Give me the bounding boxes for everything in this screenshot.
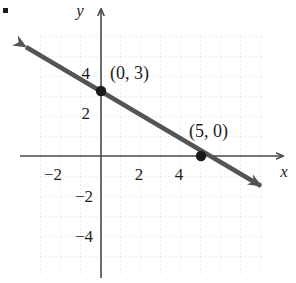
point-0-3: [96, 86, 106, 96]
y-tick-label-2: 2: [82, 104, 91, 123]
annotation-point-5-0: (5, 0): [189, 121, 228, 142]
y-tick-label-neg2: −2: [75, 187, 93, 206]
coordinate-plane-svg: y x −2 2 4 4 2 −2 −4 (0, 3) (5, 0): [0, 0, 296, 283]
x-axis-label: x: [279, 162, 288, 181]
point-5-0: [196, 151, 206, 161]
x-tick-label-2: 2: [135, 165, 144, 184]
x-tick-label-neg2: −2: [44, 165, 62, 184]
bullet-marker-icon: [3, 8, 8, 13]
y-tick-label-4: 4: [82, 64, 91, 83]
y-tick-label-neg4: −4: [75, 227, 94, 246]
graph-figure: y x −2 2 4 4 2 −2 −4 (0, 3) (5, 0): [0, 0, 296, 283]
annotation-point-0-3: (0, 3): [110, 63, 149, 84]
x-tick-label-4: 4: [175, 165, 184, 184]
y-axis-label: y: [74, 1, 84, 20]
